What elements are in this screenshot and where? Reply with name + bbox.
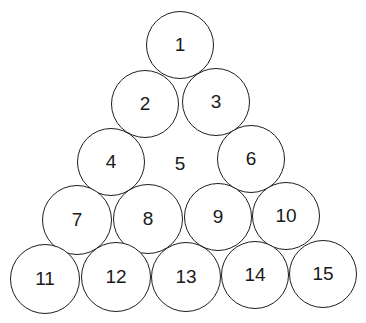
ball-label: 9 <box>213 206 224 228</box>
ball-label: 3 <box>211 91 222 113</box>
ball-label: 10 <box>275 205 296 227</box>
ball-label: 11 <box>35 268 55 290</box>
ball-label: 8 <box>143 208 154 230</box>
ball-label: 12 <box>105 266 126 288</box>
ball-label: 15 <box>312 263 333 285</box>
ball-label: 13 <box>175 266 196 288</box>
ball-label: 14 <box>244 264 265 286</box>
ball-label: 2 <box>140 93 151 115</box>
ball-label: 4 <box>106 151 117 173</box>
ball-triangle-diagram: 123456789101112131415 <box>0 0 366 323</box>
ball-label: 1 <box>175 34 186 56</box>
ball-label: 5 <box>175 153 186 175</box>
ball-label: 6 <box>246 148 257 170</box>
ball-label: 7 <box>72 209 83 231</box>
